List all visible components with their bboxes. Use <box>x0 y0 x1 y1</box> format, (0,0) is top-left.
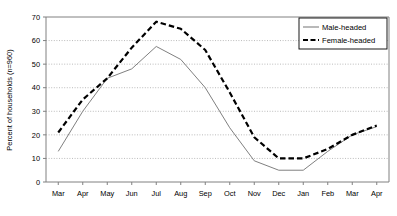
y-axis-title: Percent of households (n=960) <box>5 49 14 150</box>
x-tick-label-11: Feb <box>321 189 334 198</box>
y-tick-label-40: 40 <box>32 83 40 92</box>
legend-label-male-headed: Male-headed <box>322 23 366 32</box>
x-tick-label-5: Aug <box>174 189 187 198</box>
y-tick-label-70: 70 <box>32 13 40 22</box>
x-tick-label-8: Nov <box>248 189 261 198</box>
y-tick-label-30: 30 <box>32 107 40 116</box>
chart-container: 010203040506070 MarAprMayJunJulAugSepOct… <box>0 0 397 216</box>
chart-legend: Male-headed Female-headed <box>299 18 387 49</box>
x-tick-label-10: Jan <box>297 189 309 198</box>
x-tick-label-0: Mar <box>52 189 65 198</box>
y-axis-ticks: 010203040506070 <box>32 13 46 187</box>
x-tick-label-6: Sep <box>199 189 212 198</box>
y-tick-label-20: 20 <box>32 131 40 140</box>
x-tick-label-4: Jul <box>152 189 162 198</box>
x-axis-ticks: MarAprMayJunJulAugSepOctNovDecJanFebMarA… <box>52 182 383 198</box>
y-tick-label-0: 0 <box>36 178 40 187</box>
x-tick-label-2: May <box>100 189 114 198</box>
line-chart: 010203040506070 MarAprMayJunJulAugSepOct… <box>0 0 397 216</box>
x-tick-label-13: Apr <box>371 189 383 198</box>
y-tick-label-60: 60 <box>32 36 40 45</box>
x-tick-label-9: Dec <box>272 189 285 198</box>
y-tick-label-10: 10 <box>32 154 40 163</box>
x-tick-label-3: Jun <box>126 189 138 198</box>
x-tick-label-7: Oct <box>224 189 236 198</box>
legend-label-female-headed: Female-headed <box>322 36 375 45</box>
y-tick-label-50: 50 <box>32 60 40 69</box>
x-tick-label-12: Mar <box>346 189 359 198</box>
x-tick-label-1: Apr <box>77 189 89 198</box>
